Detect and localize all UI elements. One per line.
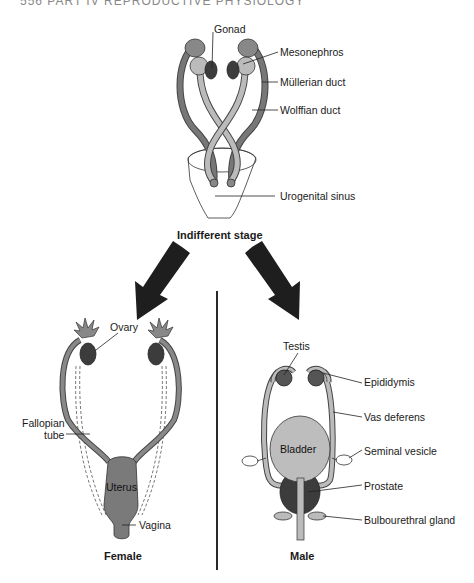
urogenital-sinus-shape <box>188 148 256 218</box>
right-testis <box>308 370 324 386</box>
title-male: Male <box>290 551 314 562</box>
left-mesonephros-top <box>185 39 205 57</box>
label-vagina: Vagina <box>139 520 171 531</box>
left-gonad <box>205 61 217 79</box>
label-vas-deferens: Vas deferens <box>364 412 425 423</box>
label-seminal-vesicle: Seminal vesicle <box>364 446 437 457</box>
urethra <box>297 478 304 540</box>
right-fimbriae <box>148 318 173 338</box>
label-mesonephros: Mesonephros <box>280 47 344 58</box>
indifferent-stage-figure <box>180 32 278 218</box>
label-ovary: Ovary <box>110 322 138 333</box>
label-bladder: Bladder <box>280 444 316 455</box>
title-indifferent-stage: Indifferent stage <box>177 230 263 241</box>
female-figure <box>62 318 178 539</box>
right-mesonephros-top <box>238 39 258 57</box>
label-bulbourethral-gland: Bulbourethral gland <box>364 515 455 526</box>
right-ovary <box>148 343 164 365</box>
label-wolffian-duct: Wolffian duct <box>280 105 340 116</box>
left-seminal-vesicle <box>242 456 258 466</box>
label-urogenital-sinus: Urogenital sinus <box>280 191 355 202</box>
label-fallopian-line1: Fallopian <box>22 418 65 429</box>
left-testis <box>276 370 292 386</box>
label-mullerian-duct: Müllerian duct <box>280 77 345 88</box>
label-testis: Testis <box>283 341 310 352</box>
label-gonad: Gonad <box>214 24 246 35</box>
label-epididymis: Epididymis <box>364 377 415 388</box>
uterus-shape <box>104 457 138 539</box>
reproductive-development-diagram <box>0 0 474 583</box>
left-fimbriae <box>74 318 99 338</box>
right-seminal-vesicle <box>336 455 352 465</box>
label-uterus: Uterus <box>106 482 137 493</box>
arrow-to-female <box>135 241 190 320</box>
label-fallopian-line2: tube <box>44 430 64 441</box>
left-bulbourethral-gland <box>274 512 292 520</box>
title-female: Female <box>104 551 142 562</box>
label-prostate: Prostate <box>364 481 403 492</box>
left-ovary <box>80 343 96 365</box>
right-gonad <box>227 61 239 79</box>
right-mesonephros <box>237 57 255 75</box>
arrow-to-male <box>245 241 300 320</box>
